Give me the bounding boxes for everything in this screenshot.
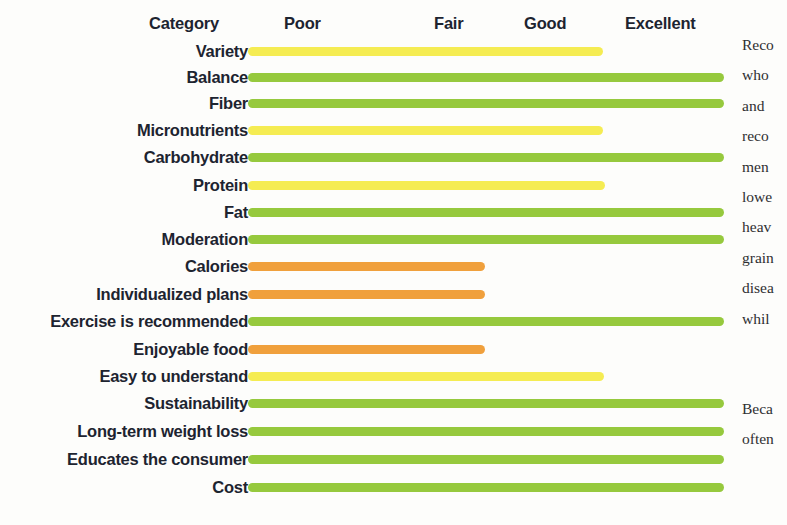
rating-bar <box>248 235 724 244</box>
chart-row: Protein <box>0 172 740 198</box>
side-text-gap <box>742 334 787 394</box>
side-text-line: men <box>742 152 787 182</box>
chart-row: Fat <box>0 199 740 225</box>
row-label: Sustainability <box>144 390 248 416</box>
rating-bar <box>248 399 724 408</box>
rating-bar <box>248 153 724 162</box>
rating-bar <box>248 427 724 436</box>
rating-bar <box>248 372 604 381</box>
rating-bar <box>248 317 724 326</box>
axis-tick-fair: Fair <box>434 10 463 36</box>
row-label: Fiber <box>209 90 248 116</box>
chart-row: Exercise is recommended <box>0 308 740 334</box>
chart-row: Individualized plans <box>0 281 740 307</box>
side-text-block-1: Recowhoandrecomenloweheavgraindiseawhil <box>742 30 787 334</box>
chart-row: Moderation <box>0 226 740 252</box>
rating-bar <box>248 455 724 464</box>
side-text-line: heav <box>742 212 787 242</box>
rating-bar <box>248 262 485 271</box>
rating-bar <box>248 345 485 354</box>
row-label: Fat <box>224 199 248 225</box>
row-label: Long-term weight loss <box>77 418 248 444</box>
row-label: Carbohydrate <box>144 144 248 170</box>
axis-tick-excellent: Excellent <box>625 10 696 36</box>
chart-row: Easy to understand <box>0 363 740 389</box>
side-text-line: and <box>742 91 787 121</box>
chart-row: Balance <box>0 64 740 90</box>
chart-row: Educates the consumer <box>0 446 740 472</box>
row-label: Easy to understand <box>99 363 248 389</box>
side-text-line: whil <box>742 304 787 334</box>
row-label: Variety <box>196 38 248 64</box>
rating-bar <box>248 290 485 299</box>
side-text-line: grain <box>742 243 787 273</box>
rating-bar <box>248 73 724 82</box>
row-label: Moderation <box>162 226 248 252</box>
row-label: Individualized plans <box>96 281 248 307</box>
chart-row: Variety <box>0 38 740 64</box>
chart-row: Enjoyable food <box>0 336 740 362</box>
row-label: Enjoyable food <box>133 336 248 362</box>
side-text-column: Recowhoandrecomenloweheavgraindiseawhil … <box>742 30 787 525</box>
chart-row: Fiber <box>0 90 740 116</box>
side-text-line: disea <box>742 273 787 303</box>
chart-row: Carbohydrate <box>0 144 740 170</box>
rating-bar <box>248 483 724 492</box>
rating-bar <box>248 181 605 190</box>
rating-bar <box>248 208 724 217</box>
row-label: Micronutrients <box>137 117 248 143</box>
side-text-line: lowe <box>742 182 787 212</box>
chart-header-row: Category Poor Fair Good Excellent <box>0 10 740 36</box>
row-label: Exercise is recommended <box>50 308 248 334</box>
row-label: Calories <box>185 253 248 279</box>
chart-row: Micronutrients <box>0 117 740 143</box>
chart-row: Calories <box>0 253 740 279</box>
side-text-line: Reco <box>742 30 787 60</box>
chart-row: Cost <box>0 474 740 500</box>
axis-tick-poor: Poor <box>284 10 321 36</box>
rating-bar <box>248 126 603 135</box>
rating-bar <box>248 99 724 108</box>
scanned-page: Category Poor Fair Good Excellent Variet… <box>0 0 787 525</box>
header-category-label: Category <box>149 10 219 36</box>
side-text-block-2: Becaoften <box>742 394 787 455</box>
chart-row: Sustainability <box>0 390 740 416</box>
side-text-line: who <box>742 60 787 90</box>
side-text-line: often <box>742 424 787 454</box>
diet-rating-bar-chart: Category Poor Fair Good Excellent Variet… <box>0 0 740 525</box>
side-text-line: Beca <box>742 394 787 424</box>
row-label: Educates the consumer <box>67 446 248 472</box>
row-label: Cost <box>212 474 248 500</box>
axis-tick-good: Good <box>524 10 566 36</box>
chart-row: Long-term weight loss <box>0 418 740 444</box>
side-text-line: reco <box>742 121 787 151</box>
row-label: Protein <box>193 172 248 198</box>
rating-bar <box>248 47 603 56</box>
row-label: Balance <box>186 64 248 90</box>
